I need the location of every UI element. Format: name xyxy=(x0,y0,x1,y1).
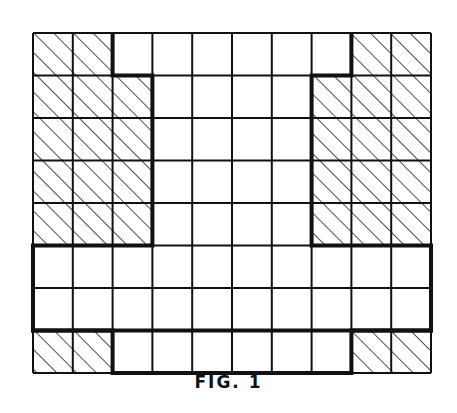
hatched-cell xyxy=(113,161,153,204)
hatched-cell xyxy=(351,118,391,161)
hatched-cell xyxy=(33,33,73,76)
hatched-cell xyxy=(33,76,73,119)
hatched-cell xyxy=(391,331,431,374)
hatched-cell xyxy=(391,161,431,204)
hatched-cell xyxy=(391,76,431,119)
hatched-cell xyxy=(391,118,431,161)
grid-figure xyxy=(0,0,457,413)
hatched-cell xyxy=(73,76,113,119)
hatched-cell xyxy=(73,331,113,374)
hatched-cell xyxy=(351,331,391,374)
hatched-cell xyxy=(73,161,113,204)
hatched-cell xyxy=(73,118,113,161)
hatched-cell xyxy=(351,76,391,119)
hatched-cell xyxy=(33,118,73,161)
hatched-cell xyxy=(113,76,153,119)
hatched-cell xyxy=(73,203,113,246)
hatched-cell xyxy=(312,76,352,119)
hatched-cell xyxy=(113,118,153,161)
hatched-cell xyxy=(351,203,391,246)
hatched-cell xyxy=(113,203,153,246)
hatched-cell xyxy=(391,203,431,246)
hatched-cell xyxy=(351,33,391,76)
hatched-cell xyxy=(391,33,431,76)
hatched-cell xyxy=(312,203,352,246)
hatched-cell xyxy=(312,118,352,161)
figure-caption: FIG. 1 xyxy=(0,372,457,392)
hatched-cell xyxy=(312,161,352,204)
hatched-cell xyxy=(351,161,391,204)
hatched-cell xyxy=(73,33,113,76)
hatched-cell xyxy=(33,161,73,204)
hatched-cell xyxy=(33,203,73,246)
hatched-cell xyxy=(33,331,73,374)
